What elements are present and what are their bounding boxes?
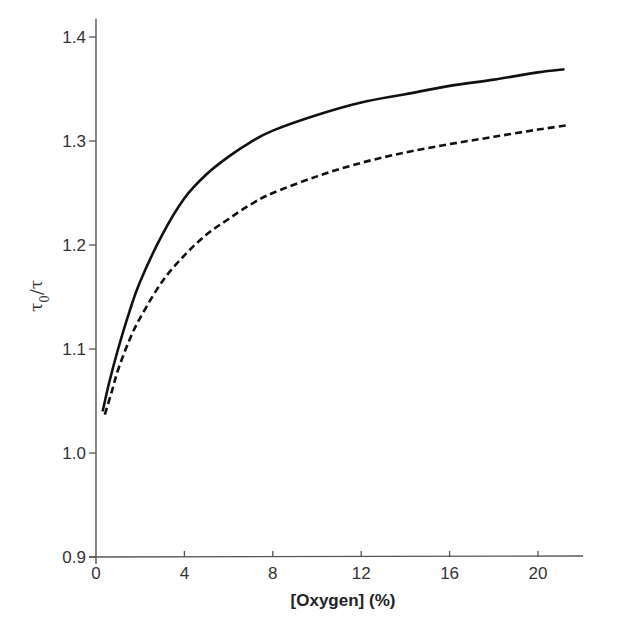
y-axis-ticks: 0.91.01.11.21.31.4 [62,28,96,567]
y-tick-label: 1.3 [62,132,86,151]
x-tick-label: 12 [352,564,371,583]
y-tick-label: 1.0 [62,444,86,463]
dashed-curve [105,125,567,414]
y-tick-label: 1.1 [62,340,86,359]
x-tick-label: 16 [440,564,459,583]
x-axis-line [89,556,583,557]
chart: 0.91.01.11.21.31.4 048121620 [Oxygen] (%… [0,0,631,638]
y-tick-label: 1.2 [62,236,86,255]
x-tick-label: 4 [180,564,189,583]
solid-curve [103,69,565,411]
data-lines [103,69,567,414]
x-tick-label: 0 [91,564,100,583]
x-tick-label: 8 [268,564,277,583]
x-axis-title: [Oxygen] (%) [291,591,396,610]
axes [89,19,583,564]
y-tick-label: 0.9 [62,548,86,567]
svg-text:τ0/τ: τ0/τ [26,280,52,312]
x-tick-label: 20 [529,564,548,583]
y-axis-title: τ0/τ [26,280,52,312]
y-tick-label: 1.4 [62,28,86,47]
